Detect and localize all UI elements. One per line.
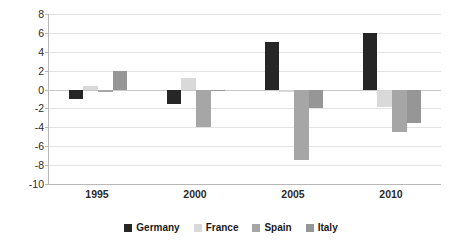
bar-chart: 86420-2-4-6-8-10 1995200020052010 German… (0, 0, 462, 243)
bar-spain-2010 (392, 90, 407, 133)
bar-spain-2005 (294, 90, 309, 161)
bar-france-2010 (377, 90, 392, 107)
plot-area (48, 14, 441, 184)
x-axis-tick-label: 2010 (379, 188, 402, 200)
y-axis-tickmark (45, 184, 49, 185)
bar-group-2005 (245, 14, 343, 184)
chart-legend: GermanyFranceSpainItaly (0, 219, 462, 237)
gridline (49, 184, 441, 185)
bar-group-1995 (49, 14, 147, 184)
x-axis: 1995200020052010 (48, 188, 440, 204)
legend-label: Spain (264, 223, 291, 233)
plot-wrapper: 86420-2-4-6-8-10 1995200020052010 (0, 0, 462, 200)
bar-italy-2010 (407, 90, 422, 123)
legend-swatch-icon (124, 224, 132, 232)
x-axis-tick-label: 2000 (183, 188, 206, 200)
bar-group-2000 (147, 14, 245, 184)
y-axis: 86420-2-4-6-8-10 (10, 0, 44, 200)
legend-label: Italy (318, 223, 338, 233)
bar-germany-1995 (69, 90, 84, 99)
bar-italy-1995 (113, 71, 128, 90)
bar-france-2005 (279, 90, 294, 93)
legend-label: Germany (136, 223, 179, 233)
bar-spain-2000 (196, 90, 211, 128)
bar-italy-2000 (211, 90, 226, 92)
bar-italy-2005 (309, 90, 324, 109)
x-axis-tick-label: 2005 (281, 188, 304, 200)
bar-germany-2000 (167, 90, 182, 104)
bar-france-1995 (83, 86, 98, 90)
y-axis-tick-label: 4 (10, 47, 44, 58)
y-axis-tick-label: -2 (10, 103, 44, 114)
bar-spain-1995 (98, 90, 113, 93)
legend-swatch-icon (194, 224, 202, 232)
y-axis-tick-label: -4 (10, 122, 44, 133)
bar-group-2010 (343, 14, 441, 184)
y-axis-tick-label: 2 (10, 65, 44, 76)
x-axis-tick-label: 1995 (85, 188, 108, 200)
y-axis-tick-label: -8 (10, 160, 44, 171)
bar-germany-2005 (265, 42, 280, 89)
y-axis-tick-label: 6 (10, 28, 44, 39)
legend-swatch-icon (306, 224, 314, 232)
legend-item-germany[interactable]: Germany (124, 223, 179, 233)
bar-germany-2010 (363, 33, 378, 90)
legend-item-spain[interactable]: Spain (252, 223, 291, 233)
legend-swatch-icon (252, 224, 260, 232)
y-axis-tick-label: 8 (10, 9, 44, 20)
bar-france-2000 (181, 78, 196, 89)
legend-item-france[interactable]: France (194, 223, 239, 233)
legend-label: France (206, 223, 239, 233)
y-axis-tick-label: 0 (10, 84, 44, 95)
y-axis-tick-label: -10 (10, 179, 44, 190)
legend-item-italy[interactable]: Italy (306, 223, 338, 233)
y-axis-tick-label: -6 (10, 141, 44, 152)
